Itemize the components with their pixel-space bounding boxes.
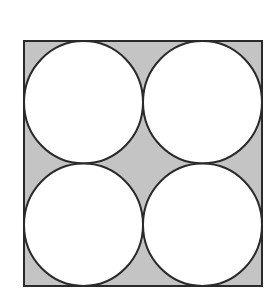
circle-bottom-left	[24, 164, 143, 287]
circle-top-right	[143, 41, 262, 164]
diagram-canvas	[0, 0, 274, 306]
circle-top-left	[24, 41, 143, 164]
circle-bottom-right	[143, 164, 262, 287]
